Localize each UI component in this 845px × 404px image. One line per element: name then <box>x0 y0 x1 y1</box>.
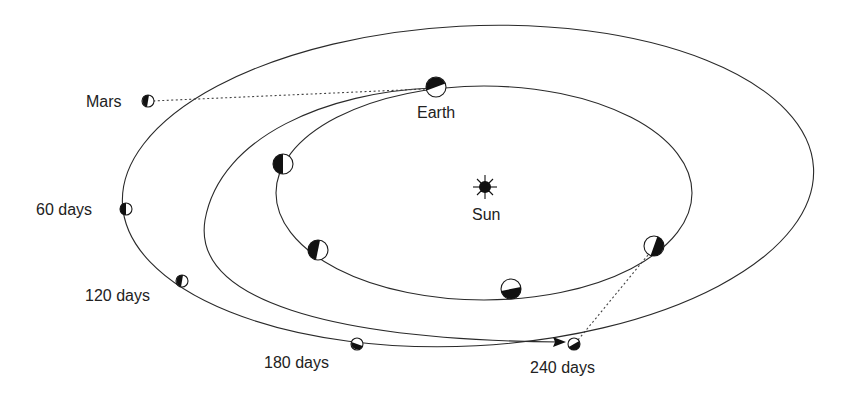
mars-position-180-days <box>351 338 363 350</box>
sun-label: Sun <box>472 206 500 223</box>
earth-position-end <box>644 236 664 256</box>
earth-position-start <box>426 77 446 97</box>
earth-position-2 <box>273 154 293 174</box>
mars-position-120-days <box>176 275 188 287</box>
earth-label: Earth <box>417 104 455 121</box>
mars-position-240-days <box>568 338 580 350</box>
earth-position-3 <box>308 240 328 260</box>
transfer-orbit <box>204 88 560 342</box>
day180-label: 180 days <box>264 354 329 371</box>
earth-position-4 <box>501 279 521 299</box>
day120-label: 120 days <box>85 287 150 304</box>
earth-mars-line-end <box>578 255 648 340</box>
earth-orbit <box>276 86 692 300</box>
day60-label: 60 days <box>36 201 92 218</box>
mars-position-start <box>142 95 154 107</box>
orbit-diagram: Earth Sun Mars 60 days 120 days 180 days… <box>0 0 845 404</box>
mars-position-60-days <box>120 203 132 215</box>
mars-orbit <box>114 8 822 364</box>
sun-icon <box>473 175 497 199</box>
mars-label: Mars <box>86 93 122 110</box>
day240-label: 240 days <box>530 359 595 376</box>
orbits <box>114 8 822 364</box>
